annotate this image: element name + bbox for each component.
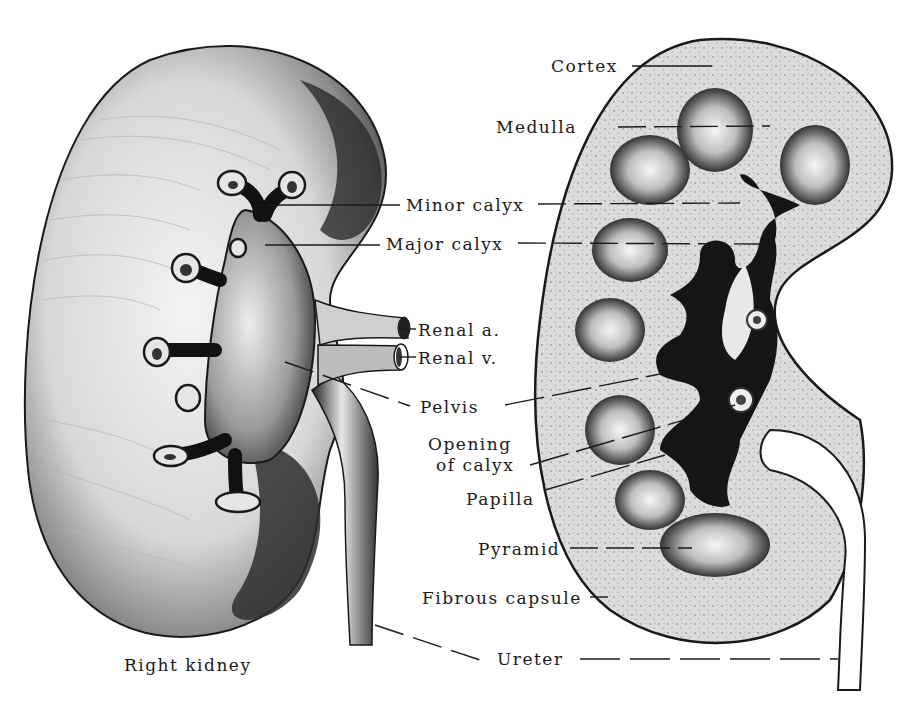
label-minor-calyx: Minor calyx: [406, 195, 524, 215]
label-cortex: Cortex: [551, 56, 618, 76]
label-renal-artery: Renal a.: [418, 320, 500, 340]
label-opening-of-calyx-line2: of calyx: [436, 455, 514, 475]
label-fibrous-capsule: Fibrous capsule: [422, 588, 582, 608]
label-pyramid: Pyramid: [478, 539, 560, 559]
kidney-section: [535, 39, 892, 690]
label-pelvis: Pelvis: [420, 397, 479, 417]
kidney-diagram: Cortex Medulla Minor calyx Major calyx R…: [0, 0, 911, 708]
label-papilla: Papilla: [466, 489, 535, 509]
label-ureter: Ureter: [497, 649, 564, 669]
right-kidney-exterior: [25, 46, 410, 645]
label-medulla: Medulla: [496, 117, 577, 137]
label-major-calyx: Major calyx: [386, 234, 503, 254]
label-opening-of-calyx-line1: Opening: [428, 434, 512, 454]
label-renal-vein: Renal v.: [418, 348, 498, 368]
figure-caption: Right kidney: [124, 655, 252, 675]
